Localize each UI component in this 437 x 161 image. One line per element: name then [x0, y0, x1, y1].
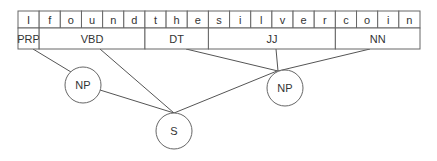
pos-tag-prp: PRP [17, 28, 40, 49]
node-label: NP [277, 82, 292, 94]
pos-tag-nn: NN [335, 28, 420, 49]
tree-nodes: NPSNP [65, 67, 303, 149]
letter-text: o [68, 14, 74, 26]
letter-cell: i [230, 11, 251, 28]
letter-cell: d [124, 11, 145, 28]
pos-tag-jj: JJ [208, 28, 335, 49]
letter-text: i [239, 14, 241, 26]
edge-vbd-s [100, 49, 174, 113]
pos-tag-dt: DT [145, 28, 208, 49]
letter-cell: c [335, 11, 356, 28]
letter-cell: I [18, 11, 39, 28]
node-label: NP [75, 79, 90, 91]
parse-tree-diagram: Ifoundthesilvercoin PRPVBDDTJJNN NPSNP [0, 0, 437, 161]
letter-text: v [280, 14, 286, 26]
edge-np1-s [100, 90, 174, 113]
letter-text: s [216, 14, 222, 26]
letter-cell: e [293, 11, 314, 28]
letter-text: h [174, 14, 180, 26]
letter-text: n [110, 14, 116, 26]
pos-tag-label: VBD [81, 33, 104, 45]
node-s: S [156, 113, 192, 149]
letter-cell: t [145, 11, 166, 28]
letter-cell: f [39, 11, 60, 28]
letter-text: e [301, 14, 307, 26]
pos-tag-label: PRP [17, 33, 40, 45]
letter-cell: r [314, 11, 335, 28]
letter-cell: i [378, 11, 399, 28]
letter-row: Ifoundthesilvercoin [18, 11, 420, 28]
letter-text: r [323, 14, 327, 26]
node-label: S [170, 125, 177, 137]
letter-text: u [89, 14, 95, 26]
edge-nn-np2 [278, 49, 370, 71]
letter-text: o [364, 14, 370, 26]
letter-cell: v [272, 11, 293, 28]
letter-text: d [131, 14, 137, 26]
letter-cell: e [187, 11, 208, 28]
letter-text: e [195, 14, 201, 26]
edge-dt-np2 [186, 49, 278, 71]
letter-text: i [387, 14, 389, 26]
letter-cell: o [357, 11, 378, 28]
letter-cell: s [208, 11, 229, 28]
pos-tag-row: PRPVBDDTJJNN [17, 28, 420, 49]
letter-text: I [27, 14, 30, 26]
letter-text: l [260, 14, 262, 26]
letter-cell: h [166, 11, 187, 28]
letter-cell: n [399, 11, 420, 28]
edge-np2-s [174, 71, 277, 113]
letter-cell: u [81, 11, 102, 28]
pos-tag-label: NN [370, 33, 386, 45]
letter-cell: o [60, 11, 81, 28]
letter-text: c [343, 14, 349, 26]
node-np1: NP [65, 67, 101, 103]
node-np2: NP [267, 70, 303, 106]
pos-tag-label: DT [169, 33, 184, 45]
letter-cell: n [103, 11, 124, 28]
pos-tag-vbd: VBD [39, 28, 145, 49]
letter-cell: l [251, 11, 272, 28]
edge-jj-np2 [276, 49, 278, 71]
pos-tag-label: JJ [266, 33, 277, 45]
edge-prp-np1 [33, 49, 71, 72]
letter-text: n [406, 14, 412, 26]
letter-text: t [154, 14, 157, 26]
